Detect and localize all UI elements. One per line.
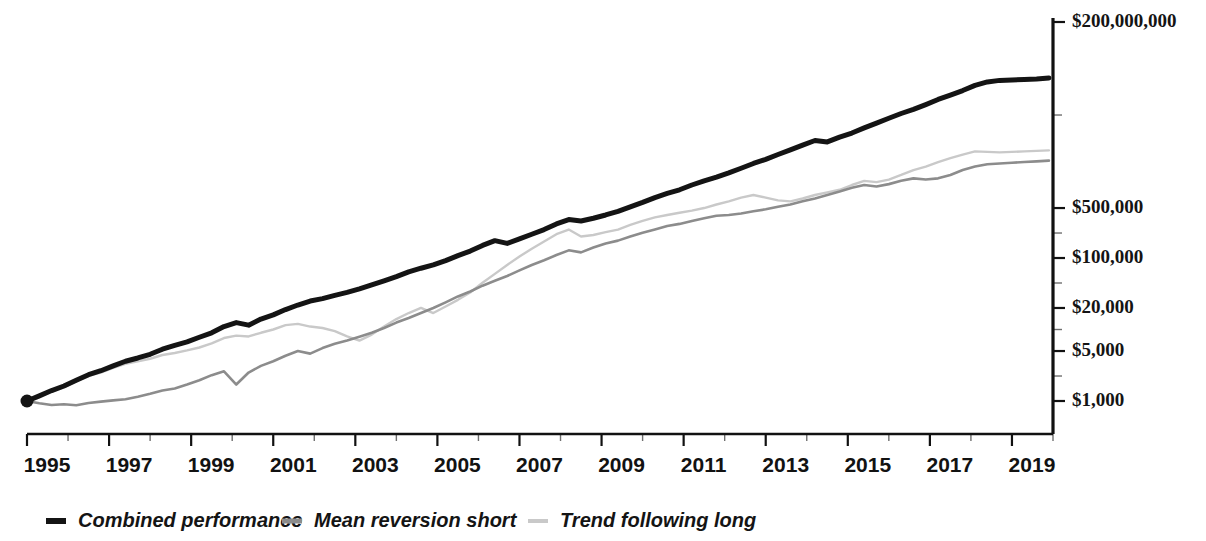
y-axis-tick-label: $500,000: [1072, 196, 1143, 217]
series-line-mean-reversion-short: [27, 161, 1049, 406]
x-axis-tick-label: 2015: [844, 453, 891, 476]
chart-legend: Combined performanceMean reversion short…: [46, 509, 756, 531]
x-axis-tick-label: 1995: [24, 453, 71, 476]
legend-label: Trend following long: [560, 509, 756, 531]
y-axis-tick-label: $1,000: [1072, 389, 1124, 410]
x-axis-tick-label: 2019: [1009, 453, 1056, 476]
x-axis-tick-label: 2013: [762, 453, 809, 476]
x-axis-tick-label: 2007: [516, 453, 563, 476]
legend-item[interactable]: Trend following long: [528, 509, 756, 531]
series-lines-group: [21, 78, 1049, 408]
y-axis-tick-label: $5,000: [1072, 339, 1124, 360]
legend-item[interactable]: Combined performance: [46, 509, 302, 531]
y-axis-tick-labels: $200,000,000$500,000$100,000$20,000$5,00…: [1072, 10, 1177, 410]
x-axis-tick-label: 2009: [598, 453, 645, 476]
series-start-marker: [21, 395, 34, 408]
legend-label: Mean reversion short: [314, 509, 518, 531]
x-axis-tick-label: 2017: [927, 453, 974, 476]
y-axis-tick-label: $100,000: [1072, 246, 1143, 267]
x-axis-tick-label: 2005: [434, 453, 481, 476]
x-axis-tick-label: 1997: [106, 453, 153, 476]
series-line-trend-following-long: [27, 150, 1049, 401]
legend-label: Combined performance: [78, 509, 302, 531]
x-axis-tick-labels: 1995199719992001200320052007200920112013…: [24, 453, 1056, 476]
x-axis-tick-label: 2001: [270, 453, 317, 476]
performance-line-chart: $200,000,000$500,000$100,000$20,000$5,00…: [0, 0, 1206, 541]
x-axis-tick-label: 2003: [352, 453, 399, 476]
y-axis-tick-label: $200,000,000: [1072, 10, 1177, 31]
legend-item[interactable]: Mean reversion short: [282, 509, 518, 531]
y-axis-ticks: [1053, 22, 1065, 401]
x-axis-tick-label: 1999: [188, 453, 235, 476]
chart-container: $200,000,000$500,000$100,000$20,000$5,00…: [0, 0, 1206, 541]
x-axis-ticks: [27, 434, 1053, 446]
y-axis-tick-label: $20,000: [1072, 296, 1134, 317]
x-axis-tick-label: 2011: [681, 453, 727, 476]
